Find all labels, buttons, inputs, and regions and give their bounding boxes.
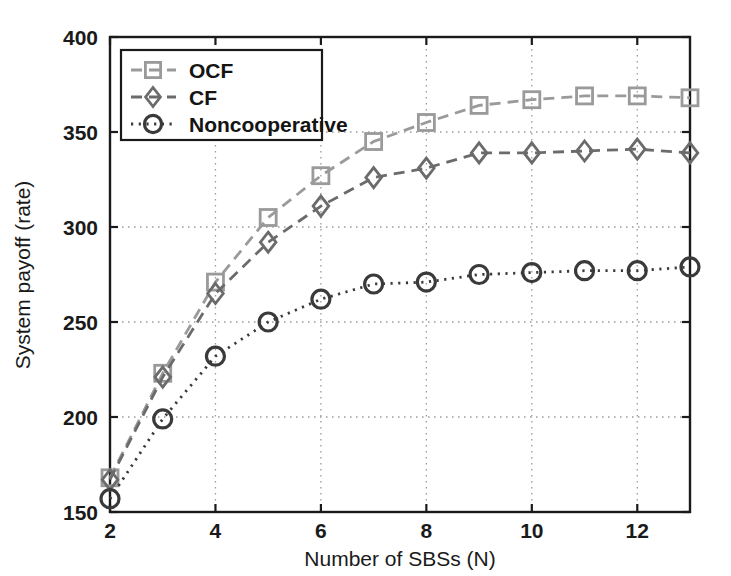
x-tick-label: 2 — [104, 519, 116, 542]
x-tick-label: 4 — [210, 519, 222, 542]
x-tick-label: 12 — [626, 519, 649, 542]
y-tick-label: 250 — [63, 311, 98, 334]
y-tick-label: 150 — [63, 501, 98, 524]
legend-label: OCF — [189, 59, 234, 82]
y-tick-label: 300 — [63, 216, 98, 239]
y-tick-label: 400 — [63, 26, 98, 49]
legend-label: CF — [189, 86, 217, 109]
x-tick-label: 8 — [421, 519, 433, 542]
legend: OCFCFNoncooperative — [121, 50, 348, 140]
y-tick-label: 350 — [63, 121, 98, 144]
x-tick-label: 6 — [315, 519, 327, 542]
y-axis-title: System payoff (rate) — [11, 181, 34, 370]
y-tick-label: 200 — [63, 406, 98, 429]
line-chart: 24681012 150200250300350400 Number of SB… — [0, 0, 731, 576]
figure-container: 24681012 150200250300350400 Number of SB… — [0, 0, 731, 576]
x-axis-title: Number of SBSs (N) — [304, 547, 495, 570]
legend-label: Noncooperative — [189, 113, 348, 136]
x-tick-label: 10 — [520, 519, 543, 542]
